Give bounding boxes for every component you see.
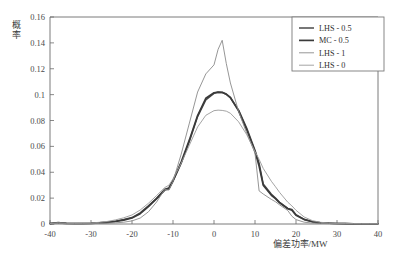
y-tick-label: 0.14 bbox=[30, 38, 46, 48]
x-tick-label: -20 bbox=[126, 229, 137, 239]
y-tick-label: 0.12 bbox=[30, 64, 45, 74]
y-axis-title: 概率 bbox=[12, 19, 21, 40]
y-tick-label: 0.06 bbox=[30, 141, 45, 151]
probability-density-chart: -40-30-20-10010203040 00.020.040.060.080… bbox=[0, 0, 395, 263]
y-tick-label: 0.08 bbox=[30, 116, 45, 126]
y-tick-label: 0.02 bbox=[30, 193, 45, 203]
x-tick-label: -40 bbox=[44, 229, 55, 239]
x-tick-label: -30 bbox=[85, 229, 96, 239]
x-tick-label: 40 bbox=[374, 229, 383, 239]
x-tick-label: -10 bbox=[167, 229, 178, 239]
chart-legend: LHS - 0.5MC - 0.5LHS - 1LHS - 0 bbox=[292, 17, 384, 71]
legend-label-0: LHS - 0.5 bbox=[319, 24, 352, 33]
x-tick-label: 30 bbox=[333, 229, 342, 239]
y-tick-label: 0 bbox=[41, 219, 45, 229]
x-axis-title: 偏差功率/MW bbox=[273, 238, 329, 249]
x-tick-label: 10 bbox=[251, 229, 260, 239]
y-tick-label: 0.16 bbox=[30, 12, 45, 22]
legend-label-3: LHS - 0 bbox=[319, 61, 345, 70]
legend-label-1: MC - 0.5 bbox=[319, 36, 349, 45]
y-tick-label: 0.1 bbox=[34, 90, 45, 100]
series-line-lhs-0 bbox=[50, 110, 378, 224]
series-line-lhs-0-5 bbox=[50, 92, 378, 223]
legend-label-2: LHS - 1 bbox=[319, 49, 345, 58]
x-tick-label: 20 bbox=[292, 229, 301, 239]
chart-figure: -40-30-20-10010203040 00.020.040.060.080… bbox=[0, 0, 395, 263]
x-tick-label: 0 bbox=[212, 229, 216, 239]
series-line-mc-0-5 bbox=[50, 92, 378, 224]
y-tick-label: 0.04 bbox=[30, 167, 46, 177]
